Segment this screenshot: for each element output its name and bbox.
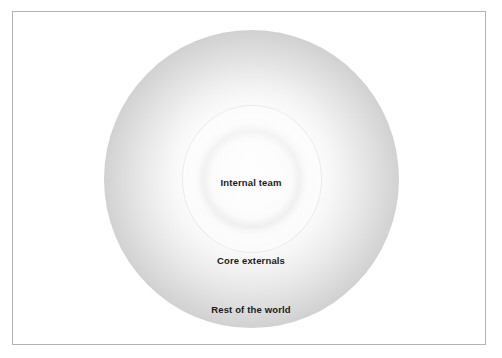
zone-label-internal-team: Internal team	[0, 177, 502, 188]
zone-label-rest-of-the-world: Rest of the world	[0, 304, 502, 315]
diagram-canvas: Internal team Core externals Rest of the…	[0, 0, 502, 358]
zone-label-core-externals: Core externals	[0, 255, 502, 266]
